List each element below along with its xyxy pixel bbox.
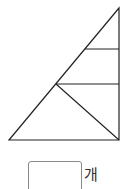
answer-input-box[interactable]: [28, 161, 82, 189]
triangle-figure: [0, 0, 130, 150]
inner-diagonal-line: [56, 84, 119, 140]
unit-label: 개: [84, 166, 98, 184]
outer-triangle: [9, 8, 119, 140]
